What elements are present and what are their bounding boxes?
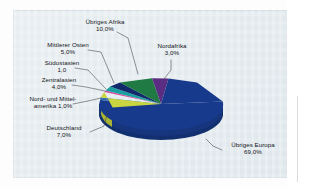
pie-top-face (99, 78, 223, 130)
chart-figure: Übriges Afrika 10,0% Mittlerer Osten 5,0… (0, 0, 309, 189)
label-suedostasien-value: 1,0 (26, 66, 98, 73)
slice-uebriges-europa-top (161, 78, 223, 104)
label-suedostasien-name: Südostasien (26, 59, 98, 66)
label-deutschland: Deutschland 7,0% (28, 124, 100, 139)
label-zentralasien: Zentralasien 4,0% (24, 76, 94, 91)
label-nord-und-mittelamerika-line1: Nord- und Mittel- (12, 95, 94, 102)
label-zentralasien-name: Zentralasien (24, 76, 94, 83)
label-uebriges-afrika-value: 10,0% (62, 25, 148, 32)
label-mittlerer-osten-name: Mittlerer Osten (28, 41, 108, 48)
label-deutschland-name: Deutschland (28, 124, 100, 131)
leader-uebriges-europa (206, 139, 222, 150)
label-nordafrika: Nordafrika 3,0% (144, 42, 200, 57)
label-nordafrika-name: Nordafrika (144, 42, 200, 49)
label-deutschland-value: 7,0% (28, 131, 100, 138)
leader-nordafrika (164, 60, 171, 79)
leader-uebriges-afrika (117, 32, 138, 74)
label-suedostasien: Südostasien 1,0 (26, 59, 98, 74)
label-mittlerer-osten-value: 5,0% (28, 48, 108, 55)
label-nord-und-mittelamerika-line2: amerika 1,0% (12, 102, 94, 109)
label-uebriges-europa-name: Übriges Europa (224, 141, 282, 148)
label-mittlerer-osten: Mittlerer Osten 5,0% (28, 41, 108, 56)
label-uebriges-europa-value: 69,0% (224, 148, 282, 155)
label-nord-und-mittelamerika: Nord- und Mittel- amerika 1,0% (12, 95, 94, 110)
label-uebriges-afrika-name: Übriges Afrika (62, 18, 148, 25)
label-zentralasien-value: 4,0% (24, 83, 94, 90)
label-nordafrika-value: 3,0% (144, 49, 200, 56)
label-uebriges-afrika: Übriges Afrika 10,0% (62, 18, 148, 33)
label-uebriges-europa: Übriges Europa 69,0% (224, 141, 282, 156)
